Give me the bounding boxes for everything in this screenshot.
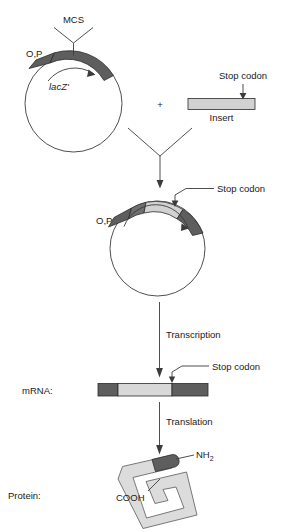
mrna-group: mRNA: Stop codon xyxy=(22,361,260,397)
lacz-label: lacZ' xyxy=(49,81,70,92)
transcription-label: Transcription xyxy=(166,329,221,340)
ligation-fork xyxy=(128,128,192,189)
lacz-direction-arrow xyxy=(48,68,96,81)
protein-group: Protein: NH2 COOH xyxy=(8,449,214,529)
insert-label: Insert xyxy=(210,112,234,123)
nh2-leader-line xyxy=(176,455,194,459)
mrna-segment-upstream xyxy=(98,384,118,397)
protein-row-label: Protein: xyxy=(8,490,41,501)
recombinant-vector-group: O,P Stop codon xyxy=(96,183,265,296)
insert-stop-codon-label: Stop codon xyxy=(219,70,267,81)
recombinant-insert-segment xyxy=(144,201,183,218)
diagram-canvas: MCS O,P lacZ' + Stop codon Insert xyxy=(0,0,308,532)
translation-label: Translation xyxy=(166,416,213,427)
recombinant-stop-codon-pointer xyxy=(172,189,214,208)
mrna-segment-insert xyxy=(118,384,172,397)
insert-group: Stop codon Insert xyxy=(188,70,267,123)
insert-rectangle xyxy=(188,99,255,110)
cooh-label: COOH xyxy=(116,492,145,503)
cloning-diagram-figure: MCS O,P lacZ' + Stop codon Insert xyxy=(0,0,308,532)
plus-sign: + xyxy=(157,99,163,110)
top-vector-group: MCS O,P lacZ' xyxy=(25,14,122,152)
mrna-segment-downstream xyxy=(172,384,208,397)
mrna-stop-codon-pointer xyxy=(169,366,209,383)
top-op-label: O,P xyxy=(26,48,42,59)
top-lacz-segment xyxy=(50,51,114,81)
recombinant-stop-codon-label: Stop codon xyxy=(217,183,265,194)
translation-step: Translation xyxy=(156,402,213,455)
mcs-label: MCS xyxy=(63,14,84,25)
mrna-stop-codon-label: Stop codon xyxy=(212,361,260,372)
mrna-row-label: mRNA: xyxy=(22,385,53,396)
protein-n-terminal-cap xyxy=(152,454,179,471)
recombinant-op-label: O,P xyxy=(96,215,112,226)
plus-sign-group: + xyxy=(157,99,163,110)
insert-stop-codon-arrow xyxy=(240,84,247,100)
nh2-label: NH2 xyxy=(196,449,214,462)
